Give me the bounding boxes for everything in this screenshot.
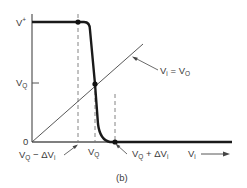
label-vq-x: VQ (88, 146, 99, 159)
label-vi-equals-vo: Vi = VO (160, 65, 190, 77)
arrowhead-line-label-icon (132, 57, 138, 62)
point-lower (112, 139, 117, 144)
label-zero: 0 (23, 136, 28, 147)
label-vi-axis: Vi (188, 148, 196, 160)
point-quiescent (92, 81, 97, 86)
label-vq-minus-dvi: VQ − ΔVi (19, 149, 55, 162)
label-vq-y: VQ (16, 77, 27, 90)
point-upper (75, 19, 80, 24)
label-vq-plus-dvi: VQ + ΔVi (132, 148, 168, 161)
transfer-curve (32, 22, 232, 142)
unity-line (32, 44, 143, 142)
figure-caption: (b) (116, 172, 128, 183)
vi-arrowhead-icon (223, 152, 230, 157)
arrow-line-label (135, 58, 158, 70)
transfer-characteristic-diagram: V+ VQ 0 VQ − ΔVi VQ VQ + ΔVi Vi Vi = VO … (0, 0, 247, 188)
label-v-plus: V+ (16, 16, 26, 28)
